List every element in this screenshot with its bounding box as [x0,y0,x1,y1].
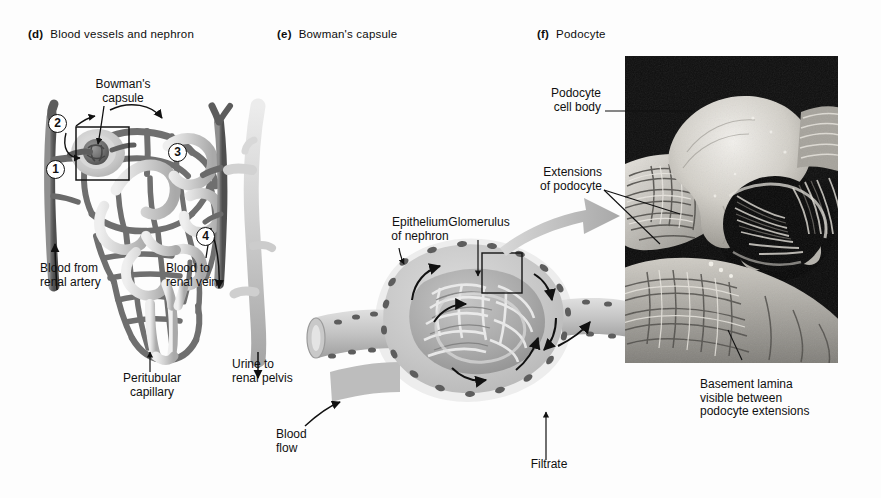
panel-heading-d: (d)Blood vessels and nephron [28,28,194,40]
label-podocyte-cell-body: Podocyte cell body [505,87,601,114]
micrograph-image [625,56,838,363]
glomerular-capillaries [409,269,545,375]
label-blood-from-renal-artery: Blood from renal artery [40,262,140,289]
panel-heading-f: (f)Podocyte [537,28,606,40]
podocyte-micrograph [625,56,838,363]
label-blood-flow: Blood flow [276,428,346,455]
nephron-tubule [99,139,219,361]
panel-d-leaders [55,105,258,378]
label-blood-to-renal-vein: Blood to renal vein [166,262,266,289]
collecting-duct [228,106,272,360]
panel-letter-d: (d) [28,28,43,40]
label-urine-to-renal-pelvis: Urine to renal pelvis [232,358,328,385]
extensions-upper-right [797,106,838,176]
figure-root: (d)Blood vessels and nephron (e)Bowman's… [0,0,881,498]
peritubular-capillary-network [84,131,218,360]
panel-title-f: Podocyte [556,28,606,40]
label-peritubular-capillary: Peritubular capillary [104,372,200,399]
panel-letter-e: (e) [277,28,292,40]
step-number-1: 1 [46,160,65,179]
panel-heading-e: (e)Bowman's capsule [277,28,397,40]
step-number-2: 2 [48,114,67,133]
bowmans-capsule-body [383,244,563,393]
capsule-halo [375,239,573,402]
panel-title-e: Bowman's capsule [299,28,398,40]
panel-title-d: Blood vessels and nephron [50,28,194,40]
afferent-arteriole [307,309,400,402]
label-bowmans-capsule: Bowman's capsule [78,78,168,105]
label-basement-lamina: Basement lamina visible between podocyte… [700,378,860,419]
label-glomerulus: Glomerulus [437,216,521,230]
step-number-3: 3 [168,143,187,162]
label-extensions-of-podocyte: Extensions of podocyte [498,166,602,193]
panel-e-flow-arrows [412,266,590,381]
renal-vein-trunk [203,106,230,284]
epithelium-nuclei [328,240,634,397]
panel-e-leaders [305,240,546,460]
panel-letter-f: (f) [537,28,549,40]
bowmans-capsule-glomerulus [70,127,134,180]
panel-e-detail-box [482,253,522,293]
label-filtrate: Filtrate [518,458,580,472]
step-number-4: 4 [196,227,215,246]
